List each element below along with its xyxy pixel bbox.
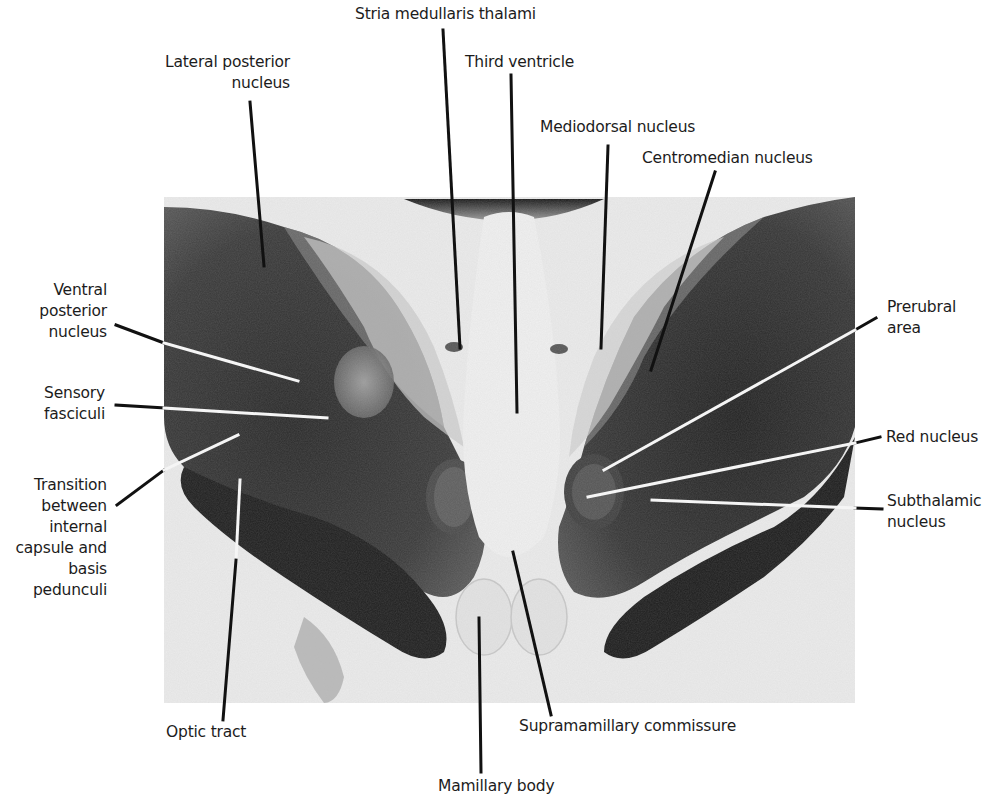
label-mamillary-body: Mamillary body [438,776,588,797]
label-centromedian-nucleus: Centromedian nucleus [642,148,862,169]
label-supramamillary-commissure: Supramamillary commissure [519,716,779,737]
label-stria-medullaris-thalami: Stria medullaris thalami [313,4,578,25]
label-prerubral-area: Prerubral area [887,297,992,339]
label-subthalamic-nucleus: Subthalamic nucleus [887,491,997,533]
label-optic-tract: Optic tract [166,722,286,743]
label-third-ventricle: Third ventricle [465,52,625,73]
label-sensory-fasciculi: Sensory fasciculi [10,383,105,425]
label-red-nucleus: Red nucleus [886,427,996,448]
label-mediodorsal-nucleus: Mediodorsal nucleus [540,117,740,138]
label-transition-internal-capsule-basis-pedunculi: Transition between internal capsule and … [5,475,107,601]
label-ventral-posterior-nucleus: Ventral posterior nucleus [10,280,107,343]
label-lateral-posterior-nucleus: Lateral posterior nucleus [140,52,290,94]
brain-section-photo [164,197,855,703]
anatomy-figure: Stria medullaris thalami Lateral posteri… [0,0,998,806]
